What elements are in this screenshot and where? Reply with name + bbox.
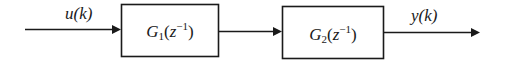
- block-g1-exponent: −1: [176, 20, 188, 32]
- block-g2-name: G: [309, 25, 321, 44]
- block-g2-label: G2(z−1): [282, 24, 384, 45]
- block-g1-close-paren: ): [188, 22, 194, 41]
- block-g2-close-paren: ): [351, 25, 357, 44]
- block-g1-name: G: [146, 22, 158, 41]
- block-g2-exponent: −1: [339, 23, 351, 35]
- output-arrow: [384, 28, 480, 37]
- input-arrow: [25, 25, 121, 34]
- output-label: y(k): [411, 7, 437, 24]
- input-label: u(k): [65, 5, 92, 22]
- connection-arrow-g1-g2: [219, 27, 282, 36]
- block-g1-label: G1(z−1): [121, 21, 219, 42]
